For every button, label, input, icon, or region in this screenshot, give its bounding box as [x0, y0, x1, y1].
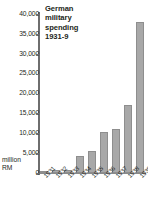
x-tick-mark [104, 173, 105, 175]
x-tick-mark [140, 173, 141, 175]
x-tick-mark [56, 173, 57, 175]
x-tick-mark [116, 173, 117, 175]
bar-1939 [136, 22, 145, 173]
y-axis-unit-label: million RM [2, 156, 21, 172]
unit-label-line-1: million [2, 156, 21, 163]
x-axis-tick-labels: 193119321933193419351936193719381939 [38, 174, 146, 218]
x-tick-mark [80, 173, 81, 175]
bar-1938 [124, 105, 133, 173]
unit-label-line-2: RM [2, 164, 12, 171]
x-tick-mark [128, 173, 129, 175]
x-tick-mark [68, 173, 69, 175]
x-tick-mark [92, 173, 93, 175]
bar-series [38, 14, 146, 173]
x-tick-mark [44, 173, 45, 175]
chart-container: German military spending 1931-9 40,00035… [0, 0, 148, 218]
